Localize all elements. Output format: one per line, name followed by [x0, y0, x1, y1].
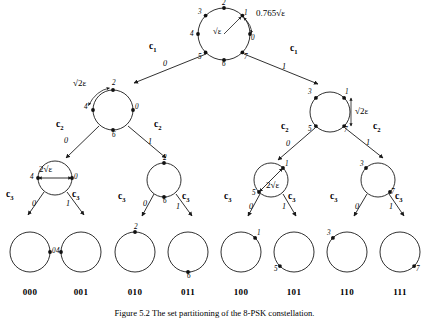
leaf-point-label-111: 7: [416, 266, 420, 273]
leaf-circle-010: [115, 230, 155, 272]
leaf-circle-110: [327, 232, 367, 272]
coset-label-c2-a: c2: [56, 120, 64, 131]
l3c3-point-label-1: 1: [285, 161, 289, 168]
coset-label-c2-b: c2: [154, 120, 162, 131]
coset-label-c3-d: c3: [182, 192, 190, 203]
branch-label-l3d-0: 0: [355, 203, 359, 211]
leaf-label-101: 101: [274, 288, 314, 297]
branch-label-l2a-0: 0: [64, 137, 68, 145]
l3c1-point-label-4: 4: [30, 174, 34, 181]
leaf-label-011: 011: [168, 288, 208, 297]
l2-left-distance-label: √2ε: [73, 79, 86, 88]
leaf-point-label-011: 6: [187, 273, 191, 280]
l2-right-point-label-7: 7: [344, 127, 348, 134]
leaf-label-001: 001: [61, 288, 101, 297]
leaf-label-110: 110: [327, 288, 367, 297]
leaf-point-label-001: 4: [56, 248, 60, 255]
set-partitioning-figure: 0 1 2 3 4 5 6 7 √ε 0.765√ε c1 c1 0 1 0 2…: [0, 0, 429, 320]
branch-label-l3c-0: 0: [249, 203, 253, 211]
l3c3-distance-label: 2√ε: [266, 181, 279, 190]
leaf-circle-100: [221, 232, 261, 272]
branch-arrow-root-1: [244, 54, 318, 84]
branch-label-l3b-1: 1: [176, 203, 180, 211]
coset-label-c2-d: c2: [373, 122, 381, 133]
leaf-circle-000: [10, 232, 52, 272]
branch-label-l2a-1: 1: [148, 138, 152, 146]
coset-label-c3-b: c3: [72, 190, 80, 201]
branch-label-l2b-0: 0: [286, 140, 290, 148]
l3c4-point-label-3: 3: [360, 161, 364, 168]
l3c1-point-label-0: 0: [74, 174, 78, 181]
branch-label-l2b-1: 1: [366, 139, 370, 147]
leaf-circle-101: [274, 232, 314, 272]
coset-label-c3-a: c3: [6, 190, 14, 201]
figure-caption: Figure 5.2 The set partitioning of the 8…: [0, 309, 429, 318]
level3-circle-2: [147, 161, 181, 199]
leaf-label-010: 010: [115, 288, 155, 297]
level3-circle-4: [361, 163, 395, 197]
l2-left-point-label-6: 6: [112, 132, 116, 139]
l3c3-point-label-5: 5: [252, 190, 256, 197]
root-point-label-4: 4: [190, 31, 194, 38]
leaf-circle-011: [168, 232, 208, 274]
l2-left-point-label-0: 0: [135, 104, 139, 111]
branch-label-l3a-1: 1: [66, 200, 70, 208]
root-point-label-1: 1: [244, 10, 248, 17]
l2-right-distance-label: √2ε: [355, 107, 368, 116]
coset-label-c3-g: c3: [330, 192, 338, 203]
root-point-label-3: 3: [198, 9, 202, 16]
coset-label-c2-c: c2: [281, 122, 289, 133]
level2-circle-left: [89, 88, 135, 132]
branch-label-l3c-1: 1: [282, 203, 286, 211]
leaf-label-100: 100: [221, 288, 261, 297]
coset-label-c3-f: c3: [288, 192, 296, 203]
leaf-label-000: 000: [10, 288, 50, 297]
coset-label-c3-h: c3: [395, 192, 403, 203]
l2-left-point-label-2: 2: [112, 80, 116, 87]
leaf-point-label-110: 3: [327, 230, 331, 237]
l3c2-point-label-6: 6: [163, 198, 167, 205]
leaf-label-111: 111: [380, 288, 420, 297]
branch-label-l3a-0: 0: [32, 200, 36, 208]
branch-label-root-1: 1: [282, 63, 286, 71]
branch-arrow-root-0: [134, 54, 206, 83]
coset-label-c1-left: c1: [149, 42, 157, 53]
l2-left-point-label-4: 4: [84, 104, 88, 111]
l2-right-point-label-5: 5: [308, 126, 312, 133]
branch-label-l3b-0: 0: [143, 200, 147, 208]
root-point-label-2: 2: [222, 0, 226, 7]
coset-label-c3-c: c3: [118, 192, 126, 203]
root-outer-distance-label: 0.765√ε: [256, 9, 285, 18]
root-point-label-7: 7: [244, 54, 248, 61]
l2-right-point-label-3: 3: [308, 89, 312, 96]
root-inner-distance-label: √ε: [213, 27, 221, 36]
figure-vector-layer: [0, 0, 429, 320]
coset-label-c1-right: c1: [290, 44, 298, 55]
leaf-point-label-100: 1: [257, 230, 261, 237]
l3c2-point-label-2: 2: [163, 155, 167, 162]
coset-label-c3-e: c3: [224, 192, 232, 203]
leaf-point-label-010: 2: [134, 224, 138, 231]
l3c1-distance-label: 2√ε: [39, 165, 52, 174]
root-point-label-5: 5: [198, 54, 202, 61]
branch-label-root-0: 0: [163, 60, 167, 68]
leaf-circle-001: [59, 232, 101, 272]
leaf-circle-111: [380, 232, 420, 272]
branch-label-l3d-1: 1: [389, 203, 393, 211]
l2-right-point-label-1: 1: [345, 89, 349, 96]
root-point-label-0: 0: [251, 35, 255, 42]
branch-arrow-l2a-0: [66, 126, 99, 158]
root-point-label-6: 6: [222, 61, 226, 68]
leaf-point-label-101: 5: [274, 266, 278, 273]
